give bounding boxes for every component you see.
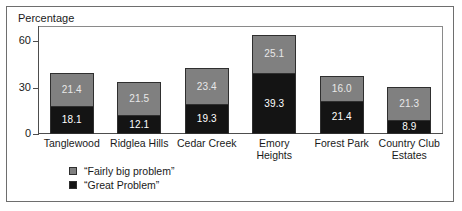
bar-group: 16.021.4 <box>320 76 364 134</box>
bar-value-label: 21.3 <box>399 99 419 109</box>
bar-segment-great-problem: 8.9 <box>387 120 431 134</box>
legend-swatch-icon <box>69 181 77 189</box>
bar-group: 21.512.1 <box>117 82 161 134</box>
x-axis-category-label: Forest Park <box>308 137 376 149</box>
bar-value-label: 21.4 <box>332 112 352 122</box>
legend-swatch-icon <box>69 167 77 175</box>
bar-value-label: 19.3 <box>197 114 217 124</box>
bar-value-label: 18.1 <box>62 115 82 125</box>
bar-segment-fairly-big-problem: 16.0 <box>320 76 364 101</box>
y-axis-tick <box>33 88 39 89</box>
bar-value-label: 21.5 <box>129 94 149 104</box>
x-axis-category-label: Cedar Creek <box>173 137 241 149</box>
bar-group: 21.418.1 <box>50 73 94 134</box>
x-axis-line <box>38 133 443 134</box>
chart-legend: “Fairly big problem”“Great Problem” <box>69 164 174 192</box>
y-axis-tick-label-text: 60 <box>7 35 31 46</box>
bar-segment-great-problem: 19.3 <box>185 104 229 134</box>
y-axis-tick <box>33 41 39 42</box>
bar-segment-great-problem: 12.1 <box>117 115 161 134</box>
x-axis-category-label: Emory Heights <box>241 137 309 161</box>
legend-label: “Fairly big problem” <box>84 165 174 177</box>
bar-segment-fairly-big-problem: 21.3 <box>387 87 431 120</box>
bar-value-label: 12.1 <box>129 120 149 130</box>
y-axis-tick <box>33 134 39 135</box>
bar-value-label: 16.0 <box>332 84 352 94</box>
bar-value-label: 25.1 <box>264 49 284 59</box>
bar-segment-great-problem: 18.1 <box>50 106 94 134</box>
x-axis-category-label: Tanglewood <box>38 137 106 149</box>
chart-figure: Percentage 03060 21.418.121.512.123.419.… <box>6 6 454 202</box>
y-axis-tick-label: 30 <box>7 82 31 93</box>
legend-item: “Great Problem” <box>69 178 174 192</box>
bar-segment-fairly-big-problem: 21.4 <box>50 73 94 106</box>
bar-segment-great-problem: 21.4 <box>320 101 364 134</box>
bar-group: 23.419.3 <box>185 68 229 134</box>
x-axis-category-label: Ridglea Hills <box>106 137 174 149</box>
bar-segment-great-problem: 39.3 <box>252 73 296 134</box>
bar-group: 25.139.3 <box>252 35 296 134</box>
y-axis-tick-label-text: 0 <box>7 128 31 139</box>
bar-value-label: 8.9 <box>402 122 416 132</box>
x-axis-category-label: Country Club Estates <box>376 137 444 161</box>
bar-value-label: 23.4 <box>197 82 217 92</box>
bar-value-label: 21.4 <box>62 85 82 95</box>
y-axis-tick-label-text: 30 <box>7 82 31 93</box>
y-axis-tick-label: 60 <box>7 35 31 46</box>
bar-segment-fairly-big-problem: 21.5 <box>117 82 161 115</box>
bar-group: 21.38.9 <box>387 87 431 134</box>
y-axis-title: Percentage <box>18 12 74 24</box>
bar-segment-fairly-big-problem: 23.4 <box>185 68 229 104</box>
plot-area <box>38 26 443 134</box>
bar-segment-fairly-big-problem: 25.1 <box>252 35 296 74</box>
bar-value-label: 39.3 <box>264 99 284 109</box>
legend-label: “Great Problem” <box>84 179 159 191</box>
y-axis-tick-label: 0 <box>7 128 31 139</box>
legend-item: “Fairly big problem” <box>69 164 174 178</box>
